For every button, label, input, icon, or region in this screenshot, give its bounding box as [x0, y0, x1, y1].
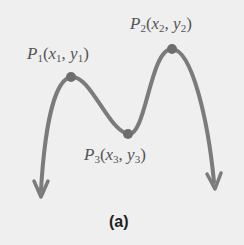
curve-diagram: [0, 0, 244, 245]
point-p3: [123, 129, 133, 139]
figure-caption: (a): [109, 213, 129, 231]
label-p1: P1(x1, y1): [27, 44, 89, 64]
label-p3: P3(x3, y3): [84, 145, 146, 165]
label-p2: P2(x2, y2): [130, 14, 192, 34]
curve: [41, 49, 214, 190]
point-p2: [167, 44, 177, 54]
point-p1: [66, 72, 76, 82]
